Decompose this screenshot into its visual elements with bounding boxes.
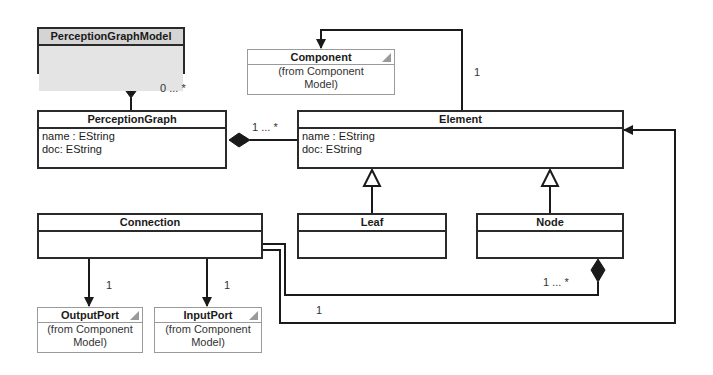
- class-name: InputPort: [184, 309, 233, 321]
- external-reference-icon: [249, 311, 258, 320]
- external-reference-icon: [130, 311, 139, 320]
- class-name: Connection: [39, 215, 261, 232]
- class-connection[interactable]: Connection: [37, 213, 263, 259]
- class-leaf[interactable]: Leaf: [297, 213, 447, 259]
- class-body: [478, 232, 622, 234]
- from-package: Model): [155, 336, 261, 349]
- attribute: doc: EString: [42, 143, 222, 156]
- multiplicity-label: 1 ... *: [543, 276, 569, 288]
- multiplicity-label: 1: [316, 304, 322, 316]
- generalization-triangle: [364, 170, 380, 186]
- class-node[interactable]: Node: [476, 213, 624, 259]
- class-perception-graph[interactable]: PerceptionGraph name : EString doc: EStr…: [37, 110, 227, 169]
- from-package: Model): [248, 78, 394, 91]
- attribute: doc: EString: [302, 143, 619, 156]
- class-name: OutputPort: [61, 309, 119, 321]
- class-name: Node: [478, 215, 622, 232]
- class-name: Element: [299, 112, 622, 129]
- class-element[interactable]: Element name : EString doc: EString: [297, 110, 624, 169]
- class-name: Component: [290, 51, 351, 63]
- class-name: Leaf: [299, 215, 445, 232]
- multiplicity-label: 1: [474, 66, 480, 78]
- class-input-port[interactable]: InputPort (from Component Model): [154, 307, 262, 353]
- multiplicity-label: 1: [106, 279, 112, 291]
- class-body: [299, 232, 445, 234]
- generalization-triangle: [542, 170, 558, 186]
- from-package: (from Component: [155, 323, 261, 336]
- class-body: [39, 232, 261, 234]
- multiplicity-label: 0 ... *: [160, 82, 186, 94]
- attribute: name : EString: [42, 130, 222, 143]
- class-perception-graph-model[interactable]: PerceptionGraphModel: [37, 27, 185, 74]
- composition-diamond: [591, 259, 605, 282]
- class-name: PerceptionGraph: [39, 112, 225, 129]
- class-output-port[interactable]: OutputPort (from Component Model): [37, 307, 143, 353]
- class-name: PerceptionGraphModel: [39, 29, 183, 46]
- multiplicity-label: 1: [224, 279, 230, 291]
- external-reference-icon: [382, 53, 391, 62]
- from-package: (from Component: [38, 323, 142, 336]
- from-package: Model): [38, 336, 142, 349]
- multiplicity-label: 1 ... *: [252, 121, 278, 133]
- attribute: name : EString: [302, 130, 619, 143]
- from-package: (from Component: [248, 65, 394, 78]
- class-component[interactable]: Component (from Component Model): [247, 49, 395, 95]
- composition-diamond: [229, 133, 250, 147]
